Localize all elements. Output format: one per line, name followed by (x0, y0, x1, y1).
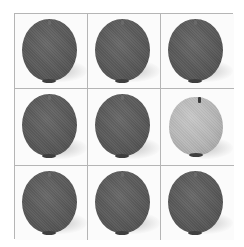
grid-cell-r2-c0[interactable] (15, 166, 88, 240)
dark-apple-image (168, 19, 223, 81)
dark-apple-image (22, 94, 77, 156)
grid-cell-r0-c2[interactable] (161, 14, 234, 89)
dark-apple-image (95, 19, 150, 81)
dark-apple-image (22, 171, 77, 233)
grid-cell-r1-c0[interactable] (15, 89, 88, 166)
image-grid (14, 13, 233, 239)
dark-apple-image (95, 171, 150, 233)
grid-cell-r0-c0[interactable] (15, 14, 88, 89)
dark-apple-image (95, 94, 150, 156)
grid-cell-r0-c1[interactable] (88, 14, 161, 89)
light-apple-image (169, 97, 223, 155)
grid-cell-r1-c2[interactable] (161, 89, 234, 166)
grid-cell-r2-c1[interactable] (88, 166, 161, 240)
grid-cell-r1-c1[interactable] (88, 89, 161, 166)
grid-cell-r2-c2[interactable] (161, 166, 234, 240)
dark-apple-image (22, 19, 77, 81)
dark-apple-image (168, 171, 223, 233)
